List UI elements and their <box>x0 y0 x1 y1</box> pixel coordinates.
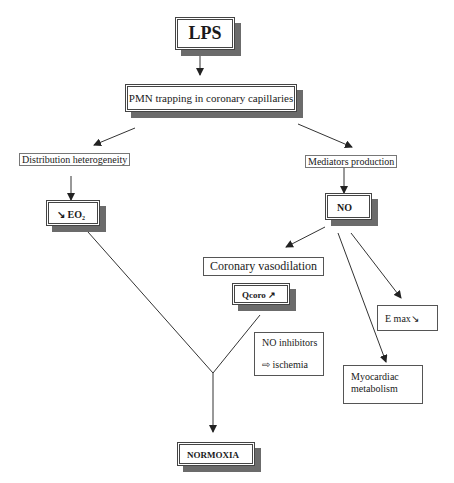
node-myocardiac-metabolism: Myocardiac metabolism <box>343 365 423 404</box>
node-pmn-label: PMN trapping in coronary capillaries <box>129 92 293 104</box>
node-qcoro-label: Qcoro ↗ <box>242 290 276 300</box>
node-mediators-label: Mediators production <box>308 156 394 167</box>
arrow-no-to-myocardiac <box>338 233 386 362</box>
node-no-inhibitors-line1: NO inhibitors <box>262 337 323 349</box>
node-mediators-production: Mediators production <box>305 155 397 168</box>
connector-lines <box>0 0 454 483</box>
arrow-no-to-vasodilation <box>286 227 325 247</box>
node-eo2: ↘ EO₂ <box>46 200 100 226</box>
node-lps-label: LPS <box>188 23 221 44</box>
node-normoxia-label: NORMOXIA <box>187 450 239 460</box>
node-vasodilation-label: Coronary vasodilation <box>210 259 317 274</box>
node-no: NO <box>325 193 372 220</box>
node-distribution-heterogeneity: Distribution heterogeneity <box>19 153 130 166</box>
arrow-pmn-to-distribution <box>94 128 135 145</box>
node-distribution-label: Distribution heterogeneity <box>22 154 127 165</box>
node-emax-label: E max↘ <box>385 313 419 324</box>
line-eo2-to-junction <box>88 232 213 373</box>
arrow-pmn-to-mediators <box>298 124 352 147</box>
node-no-inhibitors-line2: ischemia <box>273 359 309 370</box>
node-myocardiac-line1: Myocardiac <box>351 371 422 383</box>
node-pmn-trapping: PMN trapping in coronary capillaries <box>125 84 297 112</box>
node-coronary-vasodilation: Coronary vasodilation <box>203 257 324 276</box>
node-eo2-label: ↘ EO₂ <box>57 209 85 220</box>
node-myocardiac-line2: metabolism <box>351 383 422 395</box>
node-no-label: NO <box>337 202 352 213</box>
node-normoxia: NORMOXIA <box>177 442 255 466</box>
hollow-arrow-icon: ⇨ <box>262 359 270 370</box>
node-lps: LPS <box>175 17 235 50</box>
node-emax: E max↘ <box>377 305 438 331</box>
node-no-inhibitors: NO inhibitors ⇨ ischemia <box>254 332 324 376</box>
node-qcoro: Qcoro ↗ <box>232 283 290 305</box>
line-qcoro-to-junction <box>213 315 260 373</box>
